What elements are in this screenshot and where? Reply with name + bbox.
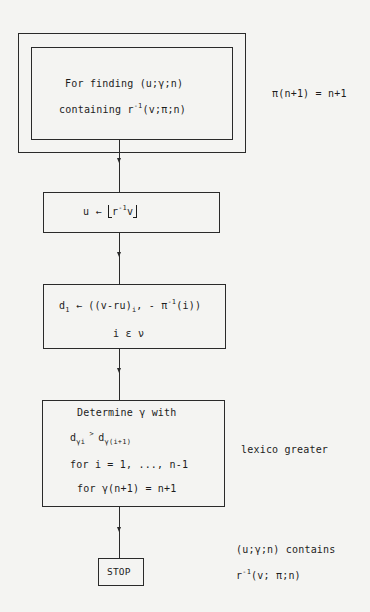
start-line-2-sup: -1: [134, 102, 143, 110]
lexico-annotation-text: lexico greater: [241, 444, 328, 455]
determine-gamma-line-4: for γ(n+1) = n+1: [77, 483, 177, 494]
start-line-1-text: For finding (u;γ;n): [65, 78, 183, 89]
start-line-2-suffix: (v;π;n): [143, 104, 187, 115]
compute-d-expr-c: (i)): [176, 300, 201, 311]
compute-d-expr-a: ((v-ru): [88, 300, 132, 311]
compute-d-expr-a-sub: i: [132, 306, 136, 314]
compute-d-sub: 1: [65, 306, 69, 314]
lexico-annotation: lexico greater: [241, 444, 328, 455]
arrow-down-icon: [117, 158, 121, 163]
assign-u-lhs: u: [83, 206, 89, 217]
end-annotation-sup: -1: [242, 568, 251, 576]
compute-d-box: [43, 284, 226, 349]
arrow-down-icon: [117, 252, 121, 257]
determine-gamma-line-1: Determine γ with: [77, 407, 177, 418]
greater-than-sign: >: [85, 430, 98, 438]
floor-right-bracket-icon: [133, 205, 137, 218]
assign-u-text: u ← r-1v: [83, 205, 137, 218]
start-box-inner: [31, 47, 233, 140]
end-annotation-line-1: (u;γ;n) contains: [236, 544, 336, 555]
compute-d-line-1: d1 ← ((v-ru)i, - π-1(i)): [59, 300, 201, 311]
start-annotation: π(n+1) = n+1: [272, 88, 347, 99]
assign-arrow-icon: ←: [95, 206, 101, 217]
end-annotation-rest: (v; π;n): [251, 570, 301, 581]
stop-label-text: STOP: [107, 566, 131, 577]
determine-gamma-boundary: for γ(n+1) = n+1: [77, 483, 177, 494]
connector-step1-step2: [119, 233, 120, 284]
compute-d-domain: i ε ν: [113, 328, 144, 339]
end-annotation-line-1-text: (u;γ;n) contains: [236, 544, 336, 555]
d-gamma-i-plus-1: d: [98, 432, 104, 443]
start-line-2: containing r-1(v;π;n): [59, 104, 186, 115]
compute-d-line-2: i ε ν: [113, 328, 144, 339]
connector-start-step1: [119, 140, 120, 192]
arrow-down-icon: [117, 527, 121, 532]
connector-step3-stop: [119, 507, 120, 558]
start-line-1: For finding (u;γ;n): [65, 78, 183, 89]
assign-arrow-icon: ←: [76, 300, 82, 311]
d-gamma-i-plus-1-sub: γ(i+1): [105, 438, 132, 446]
determine-gamma-title: Determine γ with: [77, 407, 177, 418]
stop-label: STOP: [107, 566, 131, 577]
determine-gamma-line-3: for i = 1, ..., n-1: [70, 459, 188, 470]
arrow-down-icon: [117, 368, 121, 373]
end-annotation-line-2: r-1(v; π;n): [236, 570, 301, 581]
assign-u-sup: -1: [118, 204, 127, 212]
d-gamma-i-sub: γi: [76, 438, 85, 446]
start-annotation-text: π(n+1) = n+1: [272, 88, 347, 99]
compute-d-expr-b-sup: -1: [167, 298, 176, 306]
compute-d-expr-b: , - π: [136, 300, 167, 311]
determine-gamma-line-2: dγi > dγ(i+1): [70, 432, 131, 443]
connector-step2-step3: [119, 349, 120, 400]
determine-gamma-range: for i = 1, ..., n-1: [70, 459, 188, 470]
start-line-2-prefix: containing r: [59, 104, 134, 115]
